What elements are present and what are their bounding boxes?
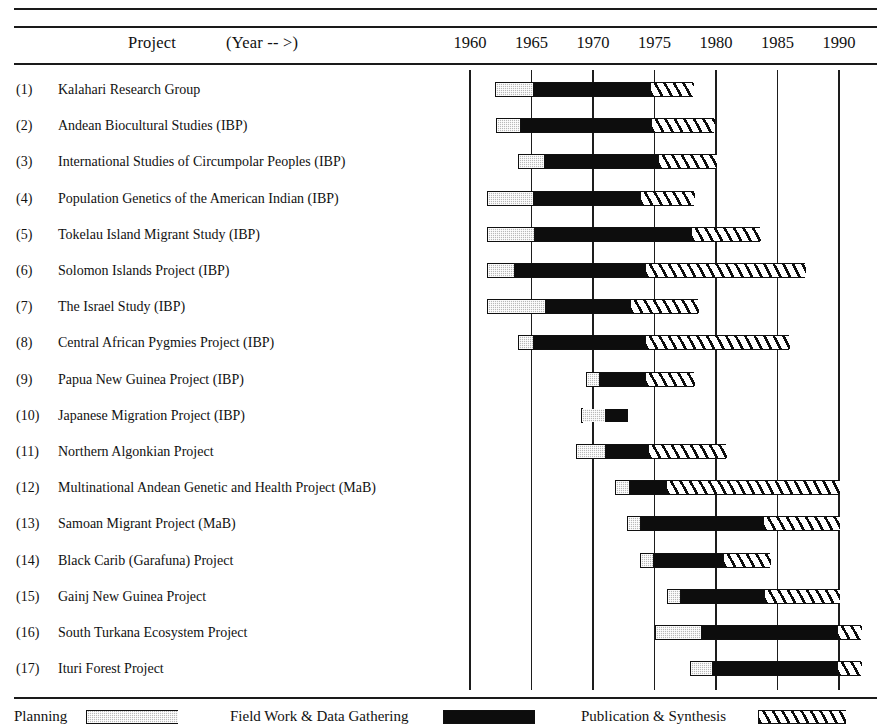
bar-segment-planning [616, 481, 630, 494]
project-name: Population Genetics of the American Indi… [58, 191, 339, 207]
bar-segment-planning [519, 155, 545, 168]
bar-segment-publication [838, 626, 863, 639]
row-index: (17) [16, 661, 58, 677]
project-timeline-bar[interactable] [518, 335, 789, 350]
project-timeline-bar[interactable] [487, 227, 760, 242]
project-name: Tokelau Island Migrant Study (IBP) [58, 227, 260, 243]
project-timeline-bar[interactable] [627, 516, 839, 531]
project-timeline-bar[interactable] [581, 408, 583, 423]
bar-segment-fieldwork [535, 228, 692, 241]
legend-swatch-fieldwork [443, 710, 535, 724]
project-name: Ituri Forest Project [58, 661, 164, 677]
rule-header-above [14, 26, 877, 28]
project-timeline-bar[interactable] [640, 553, 770, 568]
year-tick-1960: 1960 [447, 33, 493, 53]
bar-segment-fieldwork [600, 373, 646, 386]
project-timeline-bar[interactable] [487, 263, 804, 278]
row-index: (7) [16, 299, 58, 315]
project-timeline-bar[interactable] [586, 372, 694, 387]
project-timeline-bar[interactable] [495, 82, 693, 97]
bar-segment-publication [646, 373, 695, 386]
row-index: (12) [16, 480, 58, 496]
legend-swatch-planning [86, 710, 178, 724]
year-tick-1970: 1970 [570, 33, 616, 53]
table-row: (6)Solomon Islands Project (IBP) [0, 255, 887, 289]
project-timeline-bar[interactable] [690, 661, 861, 676]
row-index: (14) [16, 553, 58, 569]
bar-segment-fieldwork [546, 300, 631, 313]
table-row: (4)Population Genetics of the American I… [0, 183, 887, 217]
legend-label-publication: Publication & Synthesis [581, 708, 726, 725]
table-row: (12)Multinational Andean Genetic and Hea… [0, 472, 887, 506]
project-timeline-bar[interactable] [615, 480, 839, 495]
table-row: (3)International Studies of Circumpolar … [0, 146, 887, 180]
project-timeline-bar[interactable] [487, 299, 697, 314]
table-row: (2)Andean Biocultural Studies (IBP) [0, 110, 887, 144]
row-index: (4) [16, 191, 58, 207]
project-name: Central African Pygmies Project (IBP) [58, 335, 274, 351]
bar-segment-publication [692, 228, 761, 241]
bar-segment-planning [488, 228, 535, 241]
bar-segment-planning [519, 336, 534, 349]
bar-segment-fieldwork [606, 409, 628, 422]
year-tick-1965: 1965 [509, 33, 555, 53]
row-index: (10) [16, 408, 58, 424]
row-index: (1) [16, 82, 58, 98]
project-name: Kalahari Research Group [58, 82, 200, 98]
project-timeline-bar[interactable] [576, 444, 726, 459]
year-tick-1985: 1985 [755, 33, 801, 53]
bar-segment-planning [582, 409, 607, 422]
table-row: (1)Kalahari Research Group [0, 74, 887, 108]
bar-segment-publication [652, 119, 715, 132]
project-timeline-bar[interactable] [667, 589, 839, 604]
project-name: Samoan Migrant Project (MaB) [58, 516, 236, 532]
project-name: International Studies of Circumpolar Peo… [58, 154, 345, 170]
bar-segment-planning [691, 662, 713, 675]
bar-segment-fieldwork [654, 554, 724, 567]
bar-segment-planning [497, 119, 522, 132]
table-row: (9)Papua New Guinea Project (IBP) [0, 364, 887, 398]
project-timeline-bar[interactable] [655, 625, 862, 640]
project-timeline-bar[interactable] [496, 118, 714, 133]
row-index: (13) [16, 516, 58, 532]
project-timeline-bar[interactable] [487, 191, 694, 206]
bar-segment-fieldwork [515, 264, 645, 277]
project-timeline-bar[interactable] [518, 154, 716, 169]
table-row: (11)Northern Algonkian Project [0, 436, 887, 470]
row-index: (15) [16, 589, 58, 605]
bar-segment-planning [628, 517, 640, 530]
project-name: The Israel Study (IBP) [58, 299, 185, 315]
bar-segment-fieldwork [702, 626, 837, 639]
table-row: (8)Central African Pygmies Project (IBP) [0, 327, 887, 361]
bar-segment-publication [667, 481, 840, 494]
year-tick-1980: 1980 [693, 33, 739, 53]
table-row: (14)Black Carib (Garafuna) Project [0, 545, 887, 579]
bar-segment-publication [649, 445, 726, 458]
bar-segment-fieldwork [681, 590, 765, 603]
bar-segment-publication [724, 554, 771, 567]
table-row: (5)Tokelau Island Migrant Study (IBP) [0, 219, 887, 253]
row-index: (6) [16, 263, 58, 279]
table-row: (10)Japanese Migration Project (IBP) [0, 400, 887, 434]
project-name: South Turkana Ecosystem Project [58, 625, 247, 641]
bar-segment-fieldwork [606, 445, 649, 458]
bar-segment-fieldwork [521, 119, 651, 132]
bar-segment-planning [587, 373, 601, 386]
row-index: (3) [16, 154, 58, 170]
rule-top [14, 8, 877, 10]
gantt-chart: Project (Year -- >) 19601965197019751980… [0, 0, 887, 728]
project-name: Solomon Islands Project (IBP) [58, 263, 230, 279]
project-name: Papua New Guinea Project (IBP) [58, 372, 244, 388]
row-index: (8) [16, 335, 58, 351]
bar-segment-fieldwork [534, 83, 651, 96]
legend-swatch-publication [758, 710, 846, 724]
project-name: Black Carib (Garafuna) Project [58, 553, 233, 569]
bar-segment-planning [488, 300, 546, 313]
bar-segment-fieldwork [534, 192, 641, 205]
project-name: Andean Biocultural Studies (IBP) [58, 118, 247, 134]
row-index: (2) [16, 118, 58, 134]
legend: Planning Field Work & Data Gathering Pub… [0, 706, 887, 728]
bar-segment-planning [641, 554, 655, 567]
rule-header-below [14, 63, 877, 65]
bar-segment-planning [488, 264, 515, 277]
